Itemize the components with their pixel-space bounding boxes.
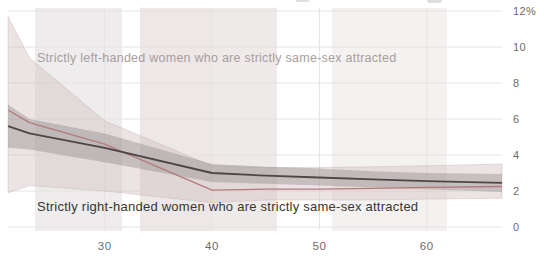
y-axis-tick-label: 12% [513,5,536,17]
annotation-left-handed: Strictly left-handed women who are stric… [37,51,396,65]
x-axis-tick-label: 60 [420,240,434,252]
x-axis-tick-label: 50 [312,240,326,252]
cropped-text-artifact [427,0,442,3]
y-axis-tick-label: 4 [513,149,520,161]
annotation-right-handed: Strictly right-handed women who are stri… [37,199,418,214]
y-axis-tick-label: 6 [513,113,520,125]
y-axis-tick-label: 8 [513,77,520,89]
y-axis-tick-label: 0 [513,221,520,233]
x-axis-tick-label: 30 [98,240,112,252]
cropped-text-artifact [296,0,309,2]
chart-canvas: 12%108642030405060 [0,0,544,259]
x-axis-tick-label: 40 [205,240,219,252]
line-chart: 12%108642030405060 Strictly left-handed … [0,0,544,259]
y-axis-tick-label: 10 [513,41,526,53]
y-axis-tick-label: 2 [513,185,520,197]
